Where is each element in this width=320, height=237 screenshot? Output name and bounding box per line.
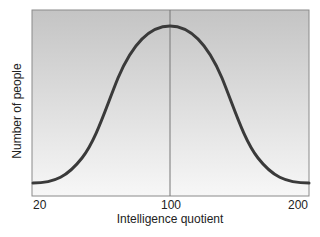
x-axis-label: Intelligence quotient [0, 212, 320, 226]
y-axis-label: Number of people [10, 56, 24, 166]
x-tick-200: 200 [288, 198, 308, 212]
x-tick-100: 100 [161, 198, 181, 212]
x-tick-20: 20 [33, 198, 46, 212]
chart-canvas [0, 0, 320, 237]
